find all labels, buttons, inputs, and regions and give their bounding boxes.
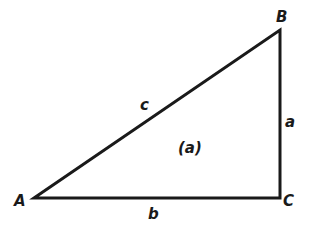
side-label-a: a	[285, 113, 295, 131]
figure-label: (a)	[178, 139, 202, 157]
vertex-label-a: A	[13, 192, 26, 210]
vertex-label-b: B	[276, 8, 287, 26]
side-label-b: b	[148, 205, 159, 223]
triangle-shape	[34, 30, 280, 198]
right-triangle-diagram: A B C a b c (a)	[0, 0, 311, 227]
vertex-label-c: C	[283, 192, 294, 210]
side-label-c: c	[140, 96, 149, 114]
